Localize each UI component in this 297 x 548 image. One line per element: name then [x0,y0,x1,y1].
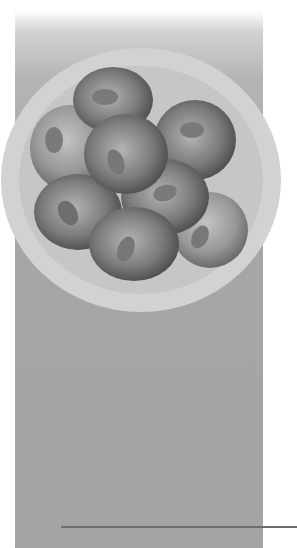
horizontal-rule [61,526,297,528]
embryo-illustration [0,0,297,548]
cell-center [84,114,168,194]
